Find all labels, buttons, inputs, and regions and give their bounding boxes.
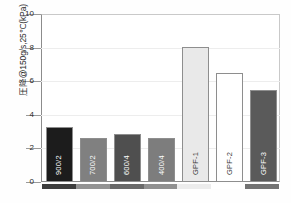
bar-label: 700/2: [88, 155, 97, 175]
bar: GPF-1: [182, 47, 209, 182]
y-axis-tick-label: 6: [14, 76, 34, 85]
bar-label: GPF-1: [191, 152, 200, 175]
y-axis-tick-label: 0: [14, 177, 34, 186]
color-swatch: [211, 184, 245, 189]
color-swatch: [76, 184, 110, 189]
bar-label: GPF-2: [225, 152, 234, 175]
y-axis-tick-label: 2: [14, 143, 34, 152]
bar: 400/4: [148, 138, 175, 182]
bar-series: 900/2700/2600/4400/4GPF-1GPF-2GPF-3: [42, 14, 279, 182]
bar: GPF-3: [250, 90, 277, 182]
bar: 900/2: [46, 127, 73, 182]
color-swatch: [110, 184, 144, 189]
bar: 600/4: [114, 134, 141, 182]
bar-label: 900/2: [54, 155, 63, 175]
color-swatch: [245, 184, 279, 189]
y-axis-title: 圧降@150g/s,25℃(kPa): [16, 0, 28, 120]
bar: 700/2: [80, 138, 107, 182]
bar-label: GPF-3: [259, 152, 268, 175]
color-swatch: [42, 184, 76, 189]
bar-label: 400/4: [157, 155, 166, 175]
y-axis-tick-label: 10: [14, 9, 34, 18]
y-axis-tick-label: 4: [14, 110, 34, 119]
bar-chart: 圧降@150g/s,25℃(kPa) 0246810 900/2700/2600…: [0, 0, 291, 203]
color-swatch: [144, 184, 178, 189]
bottom-color-strip: [42, 184, 279, 189]
y-axis-tick-label: 8: [14, 43, 34, 52]
bar-label: 600/4: [122, 155, 131, 175]
bar: GPF-2: [216, 73, 243, 182]
color-swatch: [177, 184, 211, 189]
